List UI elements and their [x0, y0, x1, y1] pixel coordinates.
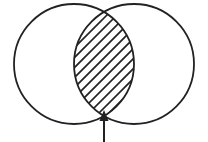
hatch-line	[0, 0, 14, 142]
hatch-line	[0, 0, 4, 142]
venn-diagram-figure	[0, 0, 208, 142]
hatch-line	[200, 0, 208, 142]
venn-diagram-svg	[0, 0, 208, 142]
